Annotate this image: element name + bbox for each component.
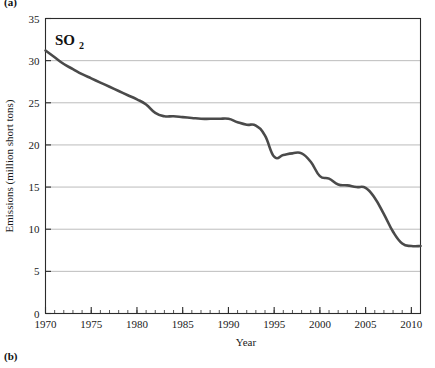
so2-data-series — [46, 51, 421, 247]
x-tick-label: 2005 — [355, 318, 378, 330]
x-tick-label: 1980 — [126, 318, 149, 330]
plot-frame — [46, 19, 421, 314]
y-tick-label: 5 — [34, 265, 40, 277]
x-tick-label: 1975 — [80, 318, 103, 330]
x-axis-tick-labels: 197019751980198519901995200020052010 — [35, 318, 423, 330]
x-tick-label: 2010 — [400, 318, 423, 330]
y-tick-label: 30 — [29, 55, 41, 67]
so2-series-annotation: SO — [55, 32, 75, 48]
y-axis-title: Emissions (million short tons) — [3, 99, 16, 232]
so2-series-annotation-subscript: 2 — [79, 40, 84, 51]
x-tick-label: 1995 — [263, 318, 286, 330]
y-axis-tick-labels: 05101520253035 — [29, 13, 41, 320]
y-tick-label: 10 — [29, 223, 41, 235]
so2-emissions-line-chart: 197019751980198519901995200020052010 051… — [0, 0, 435, 368]
x-tick-label: 2000 — [309, 318, 332, 330]
x-axis-title: Year — [236, 336, 257, 348]
panel-label-b: (b) — [4, 350, 17, 362]
y-tick-label: 0 — [34, 308, 40, 320]
y-tick-label: 25 — [29, 97, 41, 109]
x-tick-label: 1985 — [172, 318, 195, 330]
y-tick-label: 35 — [29, 13, 41, 25]
figure-panel-a: (a) 197019751980198519901995200020052010… — [0, 0, 435, 368]
x-tick-label: 1990 — [217, 318, 240, 330]
y-tick-label: 20 — [29, 139, 41, 151]
plot-area-border — [46, 19, 421, 314]
y-axis-major-ticks — [46, 19, 52, 314]
gridlines-group — [46, 19, 421, 272]
y-tick-label: 15 — [29, 181, 41, 193]
